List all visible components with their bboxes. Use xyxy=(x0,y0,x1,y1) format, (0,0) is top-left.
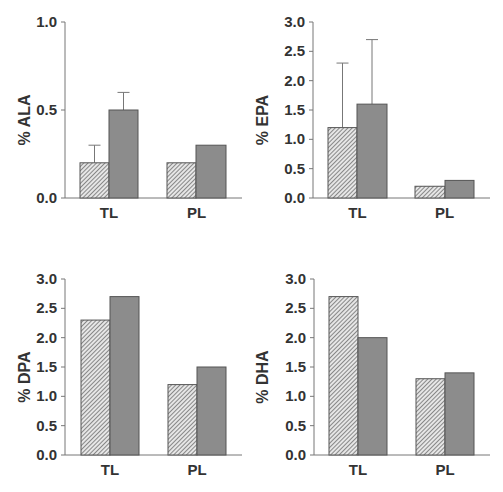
bar-tl-solid xyxy=(357,104,387,198)
y-tick-label: 2.5 xyxy=(36,299,57,316)
panel-ala: 0.00.51.0% ALATLPL xyxy=(16,13,242,221)
y-tick-label: 0.5 xyxy=(284,160,305,177)
x-category-label: PL xyxy=(435,461,454,478)
y-tick-label: 2.5 xyxy=(284,42,305,59)
y-axis-title: % EPA xyxy=(254,94,271,145)
y-tick-label: 3.0 xyxy=(36,270,57,287)
bar-tl-hatched xyxy=(81,320,110,455)
x-category-label: TL xyxy=(349,461,367,478)
y-tick-label: 1.5 xyxy=(284,101,305,118)
bar-pl-hatched xyxy=(168,385,197,455)
bar-pl-hatched xyxy=(415,186,445,198)
bar-pl-solid xyxy=(196,145,226,198)
x-category-label: PL xyxy=(187,461,206,478)
y-tick-label: 0.0 xyxy=(285,446,306,463)
y-tick-label: 1.0 xyxy=(36,387,57,404)
x-category-label: PL xyxy=(187,204,206,221)
y-tick-label: 2.0 xyxy=(36,329,57,346)
y-axis-title: % ALA xyxy=(16,94,33,145)
bar-tl-hatched xyxy=(80,163,109,198)
bar-pl-solid xyxy=(197,367,226,455)
bar-pl-hatched xyxy=(416,379,445,455)
bar-tl-solid xyxy=(109,110,138,198)
bar-tl-solid xyxy=(358,338,387,455)
bar-pl-solid xyxy=(445,373,474,455)
y-tick-label: 3.0 xyxy=(285,270,306,287)
chart-panels: 0.00.51.0% ALATLPL0.00.51.01.52.02.53.0%… xyxy=(16,13,490,478)
x-category-label: PL xyxy=(435,204,454,221)
y-tick-label: 0.5 xyxy=(36,417,57,434)
y-tick-label: 0.0 xyxy=(36,446,57,463)
y-tick-label: 1.0 xyxy=(284,130,305,147)
y-tick-label: 0.0 xyxy=(284,189,305,206)
panel-dpa: 0.00.51.01.52.02.53.0% DPATLPL xyxy=(16,270,242,478)
panel-epa: 0.00.51.01.52.02.53.0% EPATLPL xyxy=(254,13,490,221)
y-tick-label: 1.5 xyxy=(285,358,306,375)
y-tick-label: 2.0 xyxy=(285,329,306,346)
y-tick-label: 1.0 xyxy=(285,387,306,404)
bar-pl-solid xyxy=(445,180,474,198)
panel-dha: 0.00.51.01.52.02.53.0% DHATLPL xyxy=(254,270,490,478)
bar-tl-solid xyxy=(110,297,139,455)
y-axis-title: % DPA xyxy=(16,351,33,403)
chart-figure: 0.00.51.0% ALATLPL0.00.51.01.52.02.53.0%… xyxy=(0,0,503,492)
x-category-label: TL xyxy=(100,204,118,221)
y-tick-label: 0.5 xyxy=(285,417,306,434)
y-tick-label: 1.0 xyxy=(36,13,57,30)
bar-pl-hatched xyxy=(167,163,196,198)
x-category-label: TL xyxy=(101,461,119,478)
bar-tl-hatched xyxy=(329,297,358,455)
y-tick-label: 0.5 xyxy=(36,101,57,118)
y-tick-label: 0.0 xyxy=(36,189,57,206)
bar-tl-hatched xyxy=(328,128,357,198)
y-axis-title: % DHA xyxy=(254,350,271,404)
y-tick-label: 3.0 xyxy=(284,13,305,30)
y-tick-label: 1.5 xyxy=(36,358,57,375)
y-tick-label: 2.0 xyxy=(284,72,305,89)
x-category-label: TL xyxy=(348,204,366,221)
y-tick-label: 2.5 xyxy=(285,299,306,316)
